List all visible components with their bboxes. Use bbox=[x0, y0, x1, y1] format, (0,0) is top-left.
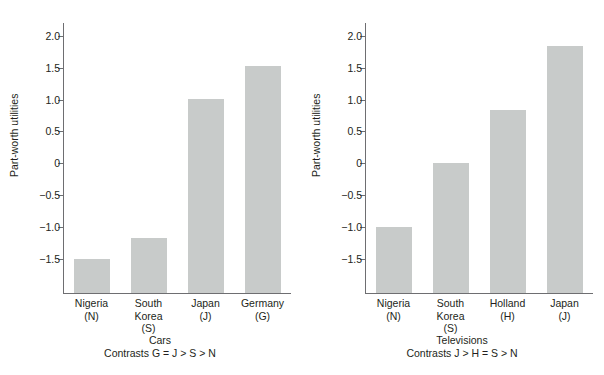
chart-subtitle-televisions: Contrasts J > H = S > N bbox=[342, 347, 582, 360]
category-label-j: Japan (J) bbox=[536, 297, 593, 322]
caption-cars: Cars Contrasts G = J > S > N bbox=[40, 334, 280, 360]
chart-title-cars: Cars bbox=[149, 334, 171, 346]
y-axis-line bbox=[365, 23, 366, 294]
bar-s bbox=[131, 238, 167, 293]
y-tick-label: 1.0 bbox=[347, 94, 362, 105]
y-tick-label: −1.5 bbox=[39, 254, 60, 265]
plot-area-cars: 2.01.51.00.50−0.5−1.0−1.5 bbox=[63, 23, 291, 294]
y-tick-label: 1.0 bbox=[45, 94, 60, 105]
bar-j bbox=[188, 99, 224, 293]
y-tick-label: −1.5 bbox=[341, 254, 362, 265]
y-axis-title-televisions: Part-worth utilities bbox=[310, 0, 324, 271]
category-label-s: South Korea (S) bbox=[422, 297, 479, 335]
category-label-s: South Korea (S) bbox=[120, 297, 177, 335]
bar-h bbox=[490, 110, 526, 293]
figure-two-panel-bar-charts: Part-worth utilities 2.01.51.00.50−0.5−1… bbox=[0, 0, 604, 375]
category-label-j: Japan (J) bbox=[177, 297, 234, 322]
caption-televisions: Televisions Contrasts J > H = S > N bbox=[342, 334, 582, 360]
y-tick-label: 2.0 bbox=[347, 31, 362, 42]
category-label-n: Nigeria (N) bbox=[365, 297, 422, 322]
y-tick-label: 1.5 bbox=[45, 62, 60, 73]
x-axis-line bbox=[63, 293, 291, 294]
bar-n bbox=[376, 227, 412, 293]
bar-j bbox=[547, 46, 583, 293]
y-tick-label: −0.5 bbox=[341, 190, 362, 201]
y-axis-line bbox=[63, 23, 64, 294]
y-tick-label: −0.5 bbox=[39, 190, 60, 201]
y-tick-label: −1.0 bbox=[39, 222, 60, 233]
chart-title-televisions: Televisions bbox=[436, 334, 487, 346]
chart-subtitle-cars: Contrasts G = J > S > N bbox=[40, 347, 280, 360]
y-axis-title-label: Part-worth utilities bbox=[10, 94, 21, 177]
bar-g bbox=[245, 66, 281, 293]
category-label-n: Nigeria (N) bbox=[63, 297, 120, 322]
y-axis-title-label: Part-worth utilities bbox=[312, 94, 323, 177]
y-tick-label: 0 bbox=[54, 158, 60, 169]
panel-televisions: Part-worth utilities 2.01.51.00.50−0.5−1… bbox=[302, 0, 604, 375]
y-tick-label: 0 bbox=[356, 158, 362, 169]
y-tick-label: 2.0 bbox=[45, 31, 60, 42]
bar-s bbox=[433, 163, 469, 293]
y-axis-title-cars: Part-worth utilities bbox=[8, 0, 22, 271]
panel-cars: Part-worth utilities 2.01.51.00.50−0.5−1… bbox=[0, 0, 302, 375]
category-label-g: Germany (G) bbox=[234, 297, 291, 322]
y-tick-label: −1.0 bbox=[341, 222, 362, 233]
y-tick-label: 1.5 bbox=[347, 62, 362, 73]
category-label-h: Holland (H) bbox=[479, 297, 536, 322]
x-axis-line bbox=[365, 293, 593, 294]
bar-n bbox=[74, 259, 110, 293]
y-tick-label: 0.5 bbox=[45, 126, 60, 137]
y-tick-label: 0.5 bbox=[347, 126, 362, 137]
plot-area-televisions: 2.01.51.00.50−0.5−1.0−1.5 bbox=[365, 23, 593, 294]
